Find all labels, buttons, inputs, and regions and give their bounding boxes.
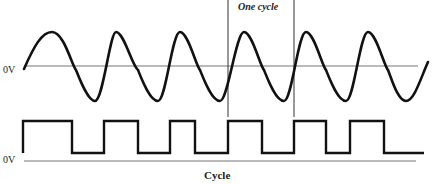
square-zero-label: 0V [3, 154, 15, 165]
waveform-diagram [0, 0, 432, 184]
one-cycle-label: One cycle [238, 1, 278, 12]
square-wave [23, 121, 424, 153]
sine-zero-label: 0V [3, 64, 15, 75]
cycle-caption: Cycle [204, 169, 230, 181]
